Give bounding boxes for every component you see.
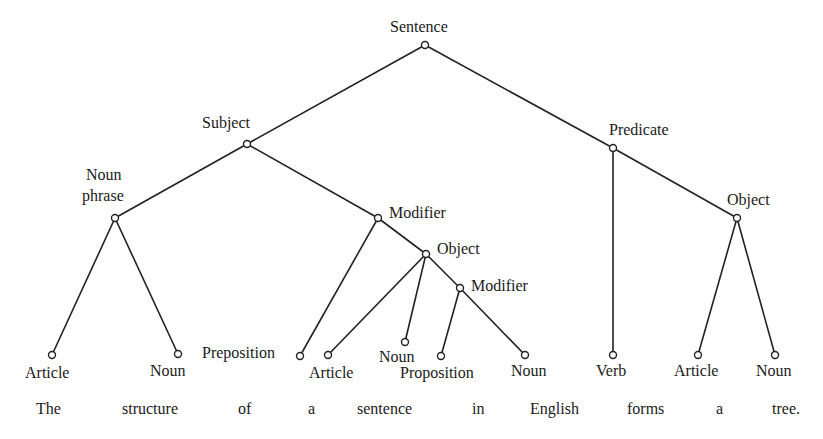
node-proposition bbox=[438, 353, 445, 360]
edge-modifier-proposition bbox=[441, 288, 460, 356]
node-preposition bbox=[297, 353, 304, 360]
node-noun-1 bbox=[175, 351, 182, 358]
label-noun-phrase-line1: Noun bbox=[86, 166, 122, 183]
label-noun-1: Noun bbox=[150, 362, 186, 379]
node-verb bbox=[610, 352, 617, 359]
node-sentence bbox=[422, 42, 429, 49]
caption-word: a bbox=[308, 400, 315, 418]
edge-subject-nounphrase bbox=[115, 144, 247, 218]
label-article-2: Article bbox=[309, 364, 353, 381]
label-proposition: Proposition bbox=[400, 364, 474, 382]
label-subject: Subject bbox=[202, 114, 251, 132]
parse-tree-diagram: Sentence Subject Predicate Noun phrase M… bbox=[0, 0, 823, 439]
edge-object-noun bbox=[737, 218, 775, 355]
edge-modifier-object bbox=[378, 218, 426, 254]
label-object-predicate: Object bbox=[727, 191, 770, 209]
caption-word: a bbox=[716, 400, 723, 418]
caption-word: tree. bbox=[772, 400, 800, 418]
node-predicate bbox=[610, 145, 617, 152]
caption-word: of bbox=[238, 400, 251, 418]
label-sentence: Sentence bbox=[390, 18, 448, 35]
edge-object-article bbox=[328, 254, 426, 355]
label-noun-2: Noun bbox=[379, 348, 415, 365]
caption-word: sentence bbox=[357, 400, 412, 418]
edge-sentence-subject bbox=[247, 45, 425, 144]
node-noun-phrase bbox=[112, 215, 119, 222]
edge-nounphrase-article bbox=[52, 218, 115, 355]
edge-nounphrase-noun bbox=[115, 218, 178, 354]
edge-modifier-preposition bbox=[300, 218, 378, 356]
tree-edges bbox=[52, 45, 775, 356]
label-preposition: Preposition bbox=[202, 344, 275, 362]
edge-sentence-predicate bbox=[425, 45, 613, 148]
caption-word: forms bbox=[627, 400, 664, 418]
edge-object-noun bbox=[405, 254, 426, 342]
label-noun-phrase-line2: phrase bbox=[82, 187, 124, 205]
node-article-1 bbox=[49, 352, 56, 359]
label-object-modifier: Object bbox=[437, 240, 480, 258]
edge-object-article bbox=[698, 218, 737, 355]
edge-modifier-noun bbox=[460, 288, 525, 355]
caption-word: structure bbox=[122, 400, 178, 418]
node-subject bbox=[244, 141, 251, 148]
label-noun-4: Noun bbox=[756, 362, 792, 379]
caption-word: in bbox=[472, 400, 484, 418]
label-article-1: Article bbox=[25, 364, 69, 381]
node-noun-3 bbox=[522, 352, 529, 359]
caption-word: English bbox=[530, 400, 579, 418]
node-object-predicate bbox=[734, 215, 741, 222]
edge-predicate-object bbox=[613, 148, 737, 218]
node-noun-4 bbox=[772, 352, 779, 359]
figure-caption: The structure of a sentence in English f… bbox=[0, 400, 823, 422]
label-modifier: Modifier bbox=[389, 204, 447, 221]
edge-subject-modifier bbox=[247, 144, 378, 218]
label-modifier-2: Modifier bbox=[471, 277, 529, 294]
node-noun-2 bbox=[402, 339, 409, 346]
node-article-3 bbox=[695, 352, 702, 359]
node-modifier-2 bbox=[457, 285, 464, 292]
caption-word: The bbox=[36, 400, 61, 418]
label-predicate: Predicate bbox=[609, 121, 669, 138]
label-noun-3: Noun bbox=[511, 362, 547, 379]
node-modifier bbox=[375, 215, 382, 222]
label-article-3: Article bbox=[674, 362, 718, 379]
node-article-2 bbox=[325, 352, 332, 359]
node-object-modifier bbox=[423, 251, 430, 258]
edge-object-modifier bbox=[426, 254, 460, 288]
label-verb: Verb bbox=[596, 362, 626, 379]
